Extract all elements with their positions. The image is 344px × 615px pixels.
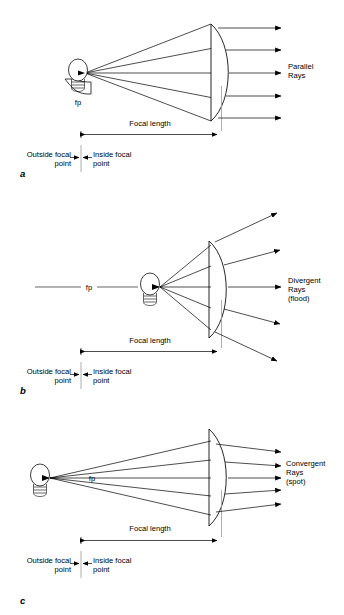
panel-a-outside-label-line1: Outside focal (27, 150, 72, 159)
panel-c-letter: c (20, 595, 26, 606)
panel-a-inside-label-line2: point (93, 159, 110, 168)
panel-a-ray-label-line2: Rays (288, 71, 306, 80)
panel-a-fp-label: fp (75, 98, 81, 107)
panel-b-letter: b (20, 385, 26, 396)
panel-b-focal-length-label: Focal length (129, 336, 170, 345)
panel-b-ray-label-line1: Divergent (288, 276, 321, 285)
panel-c-ray-label-line2: Rays (286, 468, 304, 477)
panel-c-outside-label-line1: Outside focal (27, 556, 72, 565)
panel-b-ray-label-line3: (flood) (288, 294, 310, 303)
panel-b-outside-label-line1: Outside focal (27, 367, 72, 376)
panel-c-ray-label-line3: (spot) (286, 477, 306, 486)
panel-c-inside-label-line2: point (93, 565, 110, 574)
panel-b-inside-label-line2: point (93, 376, 110, 385)
panel-b-ray-label-line2: Rays (288, 285, 306, 294)
panel-a-outside-label-line2: point (55, 159, 72, 168)
panel-b-fp-label: fp (86, 283, 92, 292)
panel-c-inside-label-line1: Inside focal (93, 556, 132, 565)
panel-b-inside-label-line1: Inside focal (93, 367, 132, 376)
panel-c-fp-label: fp (89, 474, 95, 483)
panel-a-letter: a (20, 168, 25, 179)
panel-a-ray-label-line1: Parallel (288, 62, 314, 71)
panel-c-outside-label-line2: point (55, 565, 72, 574)
figure-background (0, 0, 344, 615)
panel-a-focal-length-label: Focal length (129, 119, 170, 128)
panel-c-focal-length-label: Focal length (129, 524, 170, 533)
panel-c-ray-label-line1: Convergent (286, 459, 326, 468)
optics-figure: fp Focal length Outside focal point Insi… (0, 0, 344, 615)
panel-b-outside-label-line2: point (55, 376, 72, 385)
panel-a-inside-label-line1: Inside focal (93, 150, 132, 159)
